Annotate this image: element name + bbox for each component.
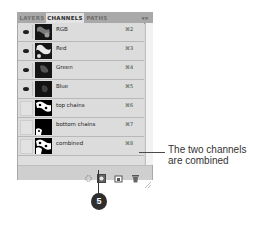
eye-icon — [23, 68, 29, 72]
callout-line — [139, 152, 165, 153]
visibility-toggle[interactable] — [20, 44, 33, 58]
channel-shortcut: ⌘6 — [125, 99, 133, 111]
channel-row-green[interactable]: Green ⌘4 — [18, 61, 144, 80]
channel-shortcut: ⌘7 — [125, 118, 133, 130]
channel-row-blue[interactable]: Blue ⌘5 — [18, 80, 144, 99]
channel-name: top chains — [56, 99, 85, 117]
tab-layers[interactable]: LAYERS — [18, 13, 46, 23]
channel-thumbnail — [35, 24, 52, 40]
channel-shortcut: ⌘8 — [125, 137, 133, 149]
channels-panel: LAYERS CHANNELS PATHS ▾≡ RGB ⌘2 Red ⌘3 — [17, 12, 153, 180]
visibility-toggle[interactable] — [20, 139, 33, 154]
channel-name: Blue — [56, 80, 68, 98]
callout-text: The two channels are combined — [168, 144, 258, 166]
channel-row-top-chains[interactable]: top chains ⌘6 — [18, 99, 144, 118]
channel-list: RGB ⌘2 Red ⌘3 Green ⌘4 Blue — [18, 23, 144, 165]
load-channel-as-selection-icon[interactable] — [84, 168, 93, 177]
visibility-toggle[interactable] — [20, 101, 33, 116]
scrollbar[interactable] — [145, 23, 153, 165]
channel-name: Green — [56, 61, 73, 79]
panel-menu-icon[interactable]: ▾≡ — [141, 15, 149, 21]
eye-icon — [23, 49, 29, 53]
channel-name: RGB — [56, 23, 68, 41]
delete-channel-icon[interactable] — [131, 168, 140, 177]
tab-paths[interactable]: PATHS — [84, 13, 110, 23]
channel-row-bottom-chains[interactable]: bottom chains ⌘7 — [18, 118, 144, 137]
channel-name: Red — [56, 42, 66, 60]
channel-thumbnail — [35, 81, 52, 97]
visibility-toggle[interactable] — [20, 25, 33, 39]
eye-icon — [23, 87, 29, 91]
channel-name: bottom chains — [56, 118, 95, 136]
channel-row-combined[interactable]: combined ⌘8 — [18, 137, 144, 156]
channel-row-red[interactable]: Red ⌘3 — [18, 42, 144, 61]
step-number-badge: 5 — [91, 193, 107, 210]
channel-shortcut: ⌘2 — [125, 23, 133, 35]
channel-row-rgb[interactable]: RGB ⌘2 — [18, 23, 144, 42]
channel-name: combined — [56, 137, 83, 155]
channel-thumbnail — [35, 138, 52, 154]
channel-thumbnail — [35, 62, 52, 78]
channel-shortcut: ⌘5 — [125, 80, 133, 92]
visibility-toggle[interactable] — [20, 82, 33, 96]
panel-toolbar — [18, 165, 152, 180]
channel-shortcut: ⌘3 — [125, 42, 133, 54]
eye-icon — [23, 30, 29, 34]
channel-shortcut: ⌘4 — [125, 61, 133, 73]
channel-thumbnail — [35, 119, 52, 135]
new-channel-icon[interactable] — [114, 168, 123, 177]
visibility-toggle[interactable] — [20, 120, 33, 135]
channel-thumbnail — [35, 100, 52, 116]
channel-thumbnail — [35, 43, 52, 59]
resize-grip-icon[interactable] — [145, 173, 151, 179]
step-pointer-line — [98, 170, 99, 193]
visibility-toggle[interactable] — [20, 63, 33, 77]
